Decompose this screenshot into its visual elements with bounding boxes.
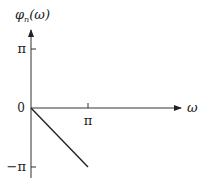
x-axis-label: ω (187, 100, 198, 115)
origin-label: 0 (17, 101, 25, 115)
x-tick-label: π (84, 113, 93, 128)
series-line-phase (31, 108, 88, 167)
y-tick-label: π (17, 41, 26, 56)
phase-response-chart: ππ−π 0 ω φn(ω) (0, 0, 206, 190)
y-axis-label: φn(ω) (15, 7, 50, 24)
y-axis-label-arg: (ω) (29, 7, 50, 22)
y-tick-label: −π (7, 159, 27, 174)
